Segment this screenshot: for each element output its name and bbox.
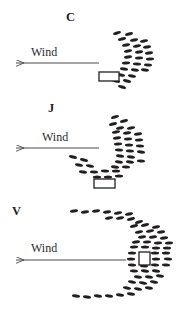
figure-background — [0, 0, 183, 315]
bird-mark — [163, 246, 171, 249]
wind-label-v: Wind — [31, 241, 57, 255]
flock-formation-figure: CWindJWindVWind — [0, 0, 183, 315]
bird-mark — [93, 175, 101, 178]
bird-mark — [152, 257, 160, 260]
bird-mark — [112, 169, 120, 172]
bird-mark — [125, 143, 133, 146]
panel-label-c: C — [66, 10, 75, 24]
bird-mark — [104, 175, 112, 178]
wind-label-j: Wind — [42, 130, 68, 144]
bird-mark — [152, 246, 160, 249]
panel-label-v: V — [12, 204, 21, 218]
bird-mark — [151, 251, 159, 254]
vessel-rectangle-c — [99, 72, 119, 81]
figure-root: CWindJWindVWind — [0, 0, 183, 315]
bird-mark — [162, 251, 170, 254]
panel-label-j: J — [48, 101, 54, 115]
bird-mark — [141, 245, 149, 248]
vessel-rectangle-v — [139, 252, 150, 265]
bird-mark — [115, 174, 123, 177]
bird-mark — [128, 251, 136, 254]
vessel-rectangle-j — [94, 179, 115, 188]
wind-label-c: Wind — [31, 45, 57, 59]
bird-mark — [127, 257, 135, 260]
